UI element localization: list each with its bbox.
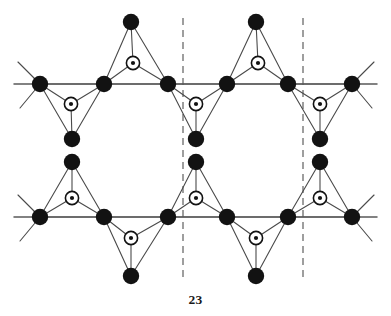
vertex-atom: [160, 76, 176, 92]
triangle-edge: [131, 22, 168, 84]
vertex-atom: [248, 268, 264, 284]
vertex-atom: [312, 131, 328, 147]
vertex-atom: [344, 209, 360, 225]
center-atom-dot: [131, 61, 135, 65]
center-atom: [65, 191, 78, 204]
triangle-edge: [288, 162, 320, 217]
vertex-atom: [64, 131, 80, 147]
center-atom-dot: [318, 102, 322, 106]
vertex-atom: [219, 76, 235, 92]
center-atom-dot: [318, 196, 322, 200]
center-atom: [189, 191, 202, 204]
center-atom-dot: [194, 196, 198, 200]
center-atom: [251, 56, 264, 69]
triangle-edge: [196, 84, 227, 139]
triangle-edge: [288, 84, 320, 139]
vertex-atom: [248, 14, 264, 30]
center-atom: [189, 97, 202, 110]
vertex-atom: [123, 268, 139, 284]
center-atom: [124, 231, 137, 244]
bond-layer: [40, 22, 352, 276]
vertex-atom-layer: [32, 14, 360, 284]
center-atom: [126, 56, 139, 69]
center-atom: [313, 191, 326, 204]
figure-caption-number: 23: [0, 292, 391, 308]
center-atom-dot: [69, 102, 73, 106]
triangle-edge: [131, 217, 168, 276]
vertex-atom: [188, 154, 204, 170]
vertex-atom: [280, 76, 296, 92]
triangle-edge: [320, 162, 352, 217]
triangle-edge: [72, 84, 104, 139]
triangle-edge: [40, 162, 72, 217]
vertex-atom: [32, 76, 48, 92]
vertex-atom: [96, 209, 112, 225]
center-atom: [313, 97, 326, 110]
vertex-atom: [96, 76, 112, 92]
triangle-edge: [227, 217, 256, 276]
triangle-edge: [256, 22, 288, 84]
triangle-edge: [40, 84, 72, 139]
vertex-atom: [123, 14, 139, 30]
center-atom-dot: [70, 196, 74, 200]
vertex-atom: [312, 154, 328, 170]
center-atom-dot: [129, 236, 133, 240]
unit-cell-boundary-layer: [183, 18, 303, 282]
triangle-edge: [256, 217, 288, 276]
vertex-atom: [280, 209, 296, 225]
vertex-atom: [64, 154, 80, 170]
center-atom: [64, 97, 77, 110]
vertex-atom: [344, 76, 360, 92]
vertex-atom: [32, 209, 48, 225]
triangle-edge: [72, 162, 104, 217]
center-atom-dot: [194, 102, 198, 106]
center-atom: [249, 231, 262, 244]
lattice-figure: 23: [0, 0, 391, 316]
edge-stub-layer: [18, 62, 374, 241]
center-atom-dot: [254, 236, 258, 240]
vertex-atom: [219, 209, 235, 225]
triangle-edge: [320, 84, 352, 139]
triangle-edge: [168, 84, 196, 139]
vertex-atom: [160, 209, 176, 225]
triangle-edge: [168, 162, 196, 217]
lattice-diagram-canvas: [0, 0, 391, 316]
center-atom-dot: [256, 61, 260, 65]
triangle-edge: [104, 217, 131, 276]
vertex-atom: [188, 131, 204, 147]
triangle-edge: [196, 162, 227, 217]
